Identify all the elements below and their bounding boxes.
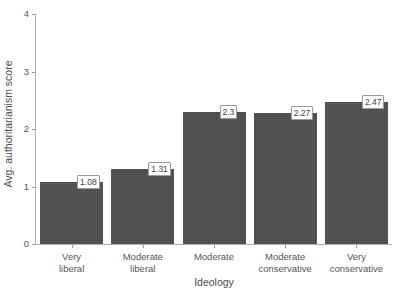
- x-tick-mark: [72, 245, 73, 248]
- x-axis-title: Ideology: [36, 276, 392, 288]
- x-tick-label-line: liberal: [107, 263, 178, 275]
- bar-value-label: 2.3: [220, 105, 238, 119]
- bar-value-label: 1.31: [148, 162, 171, 176]
- bar-value-label: 2.47: [362, 95, 385, 109]
- x-tick-label: Moderateliberal: [107, 251, 178, 274]
- bar-value-label: 2.27: [291, 106, 314, 120]
- x-tick-label-line: conservative: [250, 263, 321, 275]
- x-tick-label: Veryconservative: [321, 251, 392, 274]
- bar-texture: [325, 102, 388, 244]
- x-tick-label-line: Moderate: [107, 251, 178, 263]
- x-tick-mark: [285, 245, 286, 248]
- x-tick-label: Moderateconservative: [250, 251, 321, 274]
- x-tick-label: Veryliberal: [36, 251, 107, 274]
- x-tick-label-line: Very: [321, 251, 392, 263]
- x-tick-mark: [143, 245, 144, 248]
- y-axis-title: Avg. authoritarianism score: [0, 2, 16, 246]
- x-tick-label-line: liberal: [36, 263, 107, 275]
- x-tick-label: Moderate: [178, 251, 249, 263]
- x-tick-label-line: Moderate: [178, 251, 249, 263]
- x-tick-label-line: conservative: [321, 263, 392, 275]
- bar-texture: [111, 169, 174, 244]
- x-tick-label-line: Very: [36, 251, 107, 263]
- bar: [183, 112, 246, 244]
- bar: [325, 102, 388, 244]
- x-tick-mark: [214, 245, 215, 248]
- bar: [40, 182, 103, 244]
- bar-texture: [183, 112, 246, 244]
- bar: [254, 113, 317, 244]
- bar-chart: Avg. authoritarianism score 01234 1.081.…: [0, 0, 400, 296]
- bar: [111, 169, 174, 244]
- bar-texture: [40, 182, 103, 244]
- plot-area: 1.081.312.32.272.47: [36, 14, 392, 244]
- bar-texture: [254, 113, 317, 244]
- x-tick-label-line: Moderate: [250, 251, 321, 263]
- x-tick-mark: [356, 245, 357, 248]
- bar-value-label: 1.08: [77, 175, 100, 189]
